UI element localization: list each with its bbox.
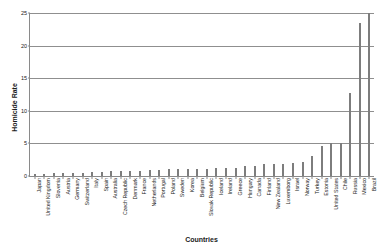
bar-slot (78, 13, 88, 176)
y-tick-label: 10 (21, 108, 27, 114)
x-label-slot: Estonia (316, 178, 326, 234)
bar-slot (202, 13, 212, 176)
bar-slot (193, 13, 203, 176)
x-label-slot: Luxemborg (278, 178, 288, 234)
x-axis-title: Countries (29, 236, 374, 243)
x-label-slot: Switzerland (77, 178, 87, 234)
bar-slot (336, 13, 346, 176)
bar-slot (250, 13, 260, 176)
x-tick-label: Brazil (372, 178, 377, 191)
x-label-slot: Japan (29, 178, 39, 234)
x-label-slot: Portugal (154, 178, 164, 234)
bar[interactable] (282, 164, 284, 176)
x-label-slot: Chile (336, 178, 346, 234)
x-label-slot: Belgium (192, 178, 202, 234)
bar[interactable] (235, 168, 237, 176)
bar-slot (212, 13, 222, 176)
x-label-slot: Austria (58, 178, 68, 234)
x-label-slot: Czech Republic (115, 178, 125, 234)
bar-slot (107, 13, 117, 176)
bar[interactable] (206, 169, 208, 176)
bar-series (30, 13, 374, 176)
x-label-slot: United Kingdom (39, 178, 49, 234)
bar-slot (97, 13, 107, 176)
bar[interactable] (368, 13, 370, 176)
x-label-slot: Slovenia (48, 178, 58, 234)
x-label-slot: Canada (249, 178, 259, 234)
x-label-slot: Italy (86, 178, 96, 234)
x-label-slot: Finland (259, 178, 269, 234)
bar-slot (260, 13, 270, 176)
x-label-slot: Hungary (240, 178, 250, 234)
bar-slot (231, 13, 241, 176)
homicide-rate-bar-chart: Homicide Rate 0510152025 JapanUnited Kin… (0, 0, 384, 250)
y-tick-label: 25 (21, 10, 27, 16)
bar-slot (68, 13, 78, 176)
bar-slot (173, 13, 183, 176)
x-label-slot: Turkey (307, 178, 317, 234)
bar-slot (279, 13, 289, 176)
x-label-slot: Iceland (211, 178, 221, 234)
x-label-slot: Denmark (125, 178, 135, 234)
bar[interactable] (215, 168, 217, 176)
bar-slot (365, 13, 375, 176)
x-label-slot: Australia (106, 178, 116, 234)
bar-slot (326, 13, 336, 176)
x-label-slot: Greece (230, 178, 240, 234)
bar[interactable] (273, 164, 275, 176)
bar[interactable] (359, 23, 361, 176)
bar[interactable] (292, 163, 294, 176)
bar-slot (116, 13, 126, 176)
bar[interactable] (340, 143, 342, 176)
bar-slot (288, 13, 298, 176)
x-label-slot: Spain (96, 178, 106, 234)
bar[interactable] (349, 93, 351, 176)
y-axis-title: Homicide Rate (11, 68, 18, 148)
x-label-slot: New Zealand (268, 178, 278, 234)
x-label-slot: Poland (163, 178, 173, 234)
bar[interactable] (302, 162, 304, 176)
bar-slot (298, 13, 308, 176)
bar-slot (154, 13, 164, 176)
y-tick-label: 15 (21, 75, 27, 81)
bar[interactable] (254, 166, 256, 176)
y-tick-label: 0 (24, 173, 27, 179)
bar-slot (269, 13, 279, 176)
bar-slot (164, 13, 174, 176)
x-label-slot: Netherlands (144, 178, 154, 234)
bar[interactable] (244, 166, 246, 176)
bar[interactable] (321, 146, 323, 176)
bar-slot (135, 13, 145, 176)
x-label-slot: Mexico (355, 178, 365, 234)
bar-slot (240, 13, 250, 176)
bar[interactable] (225, 168, 227, 176)
bar-slot (126, 13, 136, 176)
bar-slot (183, 13, 193, 176)
bar-slot (346, 13, 356, 176)
x-label-slot: Slovak Republic (201, 178, 211, 234)
y-tick-label: 5 (24, 140, 27, 146)
bar[interactable] (263, 164, 265, 176)
y-tick-label: 20 (21, 43, 27, 49)
bar-slot (59, 13, 69, 176)
bar-slot (317, 13, 327, 176)
plot-area: 0510152025 (29, 13, 374, 177)
x-label-slot: Russia (345, 178, 355, 234)
bar[interactable] (196, 169, 198, 176)
x-label-slot: Brazil (364, 178, 374, 234)
x-label-slot: Germany (67, 178, 77, 234)
bar-slot (307, 13, 317, 176)
bar-slot (145, 13, 155, 176)
bar-slot (87, 13, 97, 176)
bar-slot (49, 13, 59, 176)
x-label-slot: Korea (182, 178, 192, 234)
x-label-slot: United States (326, 178, 336, 234)
bar[interactable] (311, 156, 313, 176)
x-label-slot: Sweden (173, 178, 183, 234)
bar-slot (30, 13, 40, 176)
x-label-slot: Norway (297, 178, 307, 234)
bar-slot (40, 13, 50, 176)
bar[interactable] (330, 143, 332, 176)
x-label-slot: Ireland (221, 178, 231, 234)
bar-slot (355, 13, 365, 176)
